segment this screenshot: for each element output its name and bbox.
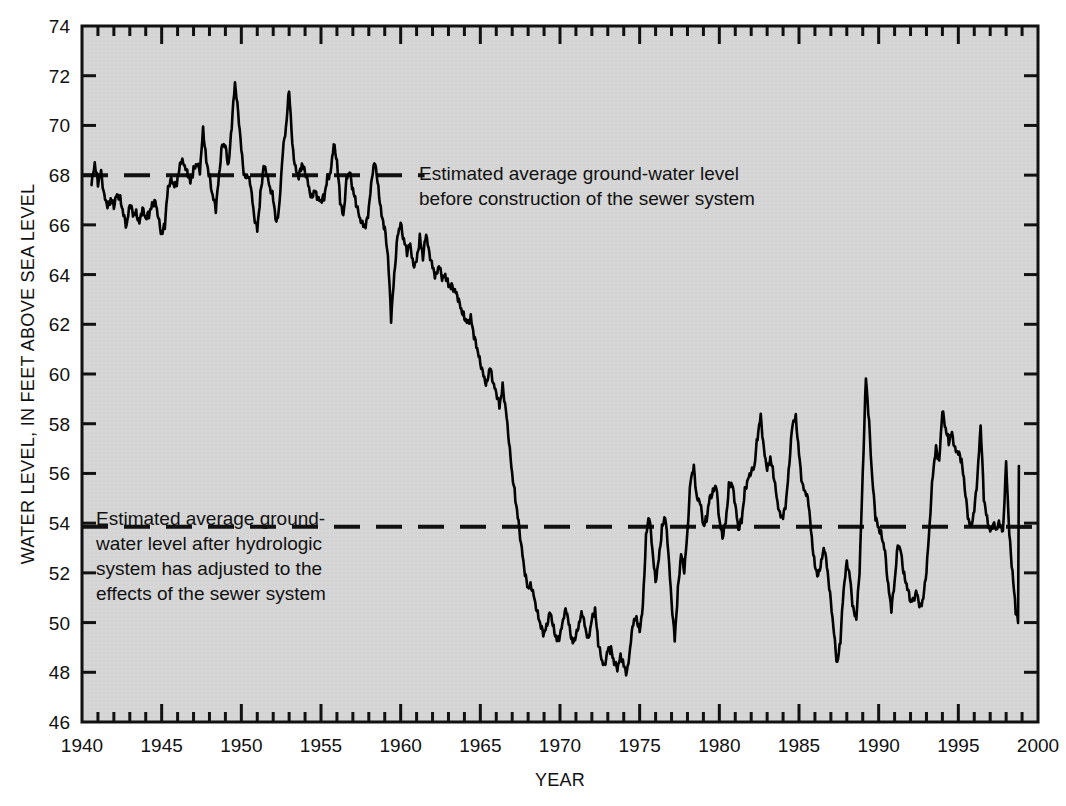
x-tick-label: 1995 [937,735,979,756]
y-tick-label: 46 [49,712,70,733]
x-tick-label: 1980 [698,735,740,756]
x-tick-label: 1975 [619,735,661,756]
y-tick-label: 72 [49,66,70,87]
y-tick-label: 48 [49,662,70,683]
x-tick-label: 1990 [858,735,900,756]
plot-area-background [82,26,1038,722]
y-axis-tick-labels: 464850525456586062646668707274 [49,16,71,733]
x-tick-label: 1945 [141,735,183,756]
annotation-pre-sewer-line-2: before construction of the sewer system [419,188,755,209]
annotation-pre-sewer-line-1: Estimated average ground-water level [419,163,739,184]
x-tick-label: 1985 [778,735,820,756]
y-tick-label: 64 [49,265,71,286]
y-tick-label: 70 [49,115,70,136]
x-tick-label: 1940 [61,735,103,756]
figure-container: 464850525456586062646668707274 194019451… [0,0,1066,806]
annotation-post-sewer-line-4: effects of the sewer system [96,583,326,604]
x-tick-label: 2000 [1017,735,1059,756]
x-tick-label: 1960 [380,735,422,756]
y-tick-label: 52 [49,563,70,584]
water-level-time-series-chart: 464850525456586062646668707274 194019451… [0,0,1066,806]
y-tick-label: 60 [49,364,70,385]
annotation-post-sewer-line-3: system has adjusted to the [96,558,322,579]
annotation-post-sewer-line-1: Estimated average ground- [96,508,325,529]
x-tick-label: 1950 [220,735,262,756]
y-tick-label: 66 [49,215,70,236]
x-tick-label: 1955 [300,735,342,756]
x-tick-label: 1970 [539,735,581,756]
y-tick-label: 62 [49,314,70,335]
y-axis-title: WATER LEVEL, IN FEET ABOVE SEA LEVEL [18,184,38,565]
y-tick-label: 50 [49,613,70,634]
y-tick-label: 54 [49,513,71,534]
y-tick-label: 56 [49,463,70,484]
x-axis-title: YEAR [535,770,585,790]
annotation-post-sewer-line-2: water level after hydrologic [95,533,322,554]
y-tick-label: 68 [49,165,70,186]
x-tick-label: 1965 [459,735,501,756]
y-tick-label: 74 [49,16,71,37]
y-tick-label: 58 [49,414,70,435]
